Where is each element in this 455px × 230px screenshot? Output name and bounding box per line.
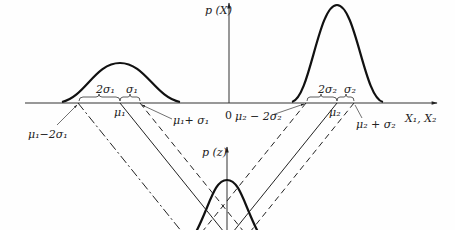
mu2-label: μ₂ bbox=[329, 106, 341, 119]
mu1-label: μ₁ bbox=[114, 106, 126, 119]
diagram-figure: p (X) 0 p (z) X₁, X₂ 2σ₁ σ₁ μ₁ μ₁−2σ₁ μ₁… bbox=[0, 0, 455, 230]
mu1-minus-2sigma-label: μ₁−2σ₁ bbox=[28, 128, 68, 141]
x-axis-label: X₁, X₂ bbox=[404, 112, 436, 125]
gaussian-curve-2 bbox=[292, 5, 383, 102]
brace-label-2sigma-2: 2σ₂ bbox=[317, 83, 337, 96]
diagram-canvas: p (X) 0 p (z) X₁, X₂ 2σ₁ σ₁ μ₁ μ₁−2σ₁ μ₁… bbox=[0, 0, 455, 230]
projection-line-mu1-minus-2sigma bbox=[78, 103, 182, 230]
mu2-plus-sigma-label: μ₂ + σ₂ bbox=[356, 118, 396, 131]
px-axis-label: p (X) bbox=[205, 4, 232, 17]
leader-mu1-plus-sigma bbox=[142, 105, 172, 119]
gaussian-curve-1 bbox=[62, 63, 180, 102]
brace-label-sigma-2: σ₂ bbox=[344, 83, 356, 96]
leader-mu2-plus-sigma bbox=[355, 105, 362, 118]
brace-label-2sigma-1: 2σ₁ bbox=[95, 83, 115, 96]
leader-mu1-minus-2sigma bbox=[57, 105, 77, 125]
origin-label: 0 bbox=[225, 109, 232, 122]
mu2-minus-2sigma-label: μ₂ − 2σ₂ bbox=[235, 110, 282, 123]
mu1-plus-sigma-label: μ₁+ σ₁ bbox=[173, 114, 209, 127]
brace-label-sigma-1: σ₁ bbox=[126, 83, 138, 96]
pz-axis-label: p (z) bbox=[202, 146, 227, 159]
